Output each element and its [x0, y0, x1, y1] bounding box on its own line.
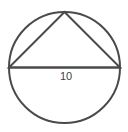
inscribed-triangle-diagram: 10 [0, 0, 128, 132]
chord-length-label: 10 [60, 70, 72, 82]
geometry-figure-canvas: 10 [0, 0, 128, 132]
inscribed-triangle-shape [9, 12, 120, 68]
